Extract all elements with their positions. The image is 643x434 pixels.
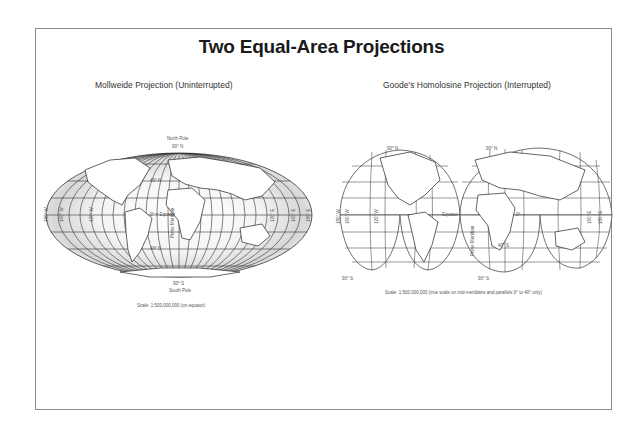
goode-lon-180e: 180° E [598,210,603,224]
projection-maps [0,0,643,434]
goode-40s-label: 40° S [498,243,509,248]
goode-scale: Scale: 1:500,000,000 (true scale on mid-… [385,290,542,295]
goode-lon-160w: 160° W [345,209,350,224]
goode-north-lat-right: 90° N [486,146,497,151]
goode-prime-meridian-label: Prime Meridian [470,226,475,256]
goode-lon-160e: 160° E [587,210,592,224]
goode-lon-180w: 180° W [336,209,341,224]
mollweide-lon-120e: 120° E [270,208,275,222]
mollweide-lon-160e: 160° E [291,208,296,222]
mollweide-north-pole-label: North Pole [167,136,188,141]
mollweide-40n-label: 40° N [150,178,161,183]
mollweide-south-pole-label: South Pole [169,288,191,293]
goode-north-lat-left: 90° N [387,146,398,151]
goode-lon-120w: 120° W [374,209,379,224]
mollweide-lon-120w: 120° W [89,207,94,222]
mollweide-map [40,150,320,280]
mollweide-scale: Scale: 1:500,000,000 (on equator) [137,303,205,308]
mollweide-prime-meridian-label: Prime Meridian [170,208,175,238]
mollweide-lon-180e: 180° E [306,208,311,222]
goode-zero-label: 0° [516,212,520,217]
mollweide-lon-180w: 180° W [44,207,49,222]
goode-south-lat-left: 90° S [342,276,353,281]
mollweide-lon-160w: 160° W [59,207,64,222]
goode-south-lat-mid: 90° S [478,276,489,281]
goode-map [340,148,612,272]
goode-equator-label: Equator [442,212,458,217]
mollweide-40s-label: 40° S [150,246,161,251]
mollweide-south-lat-label: 90° S [173,281,184,286]
mollweide-north-lat-label: 90° N [172,144,183,149]
